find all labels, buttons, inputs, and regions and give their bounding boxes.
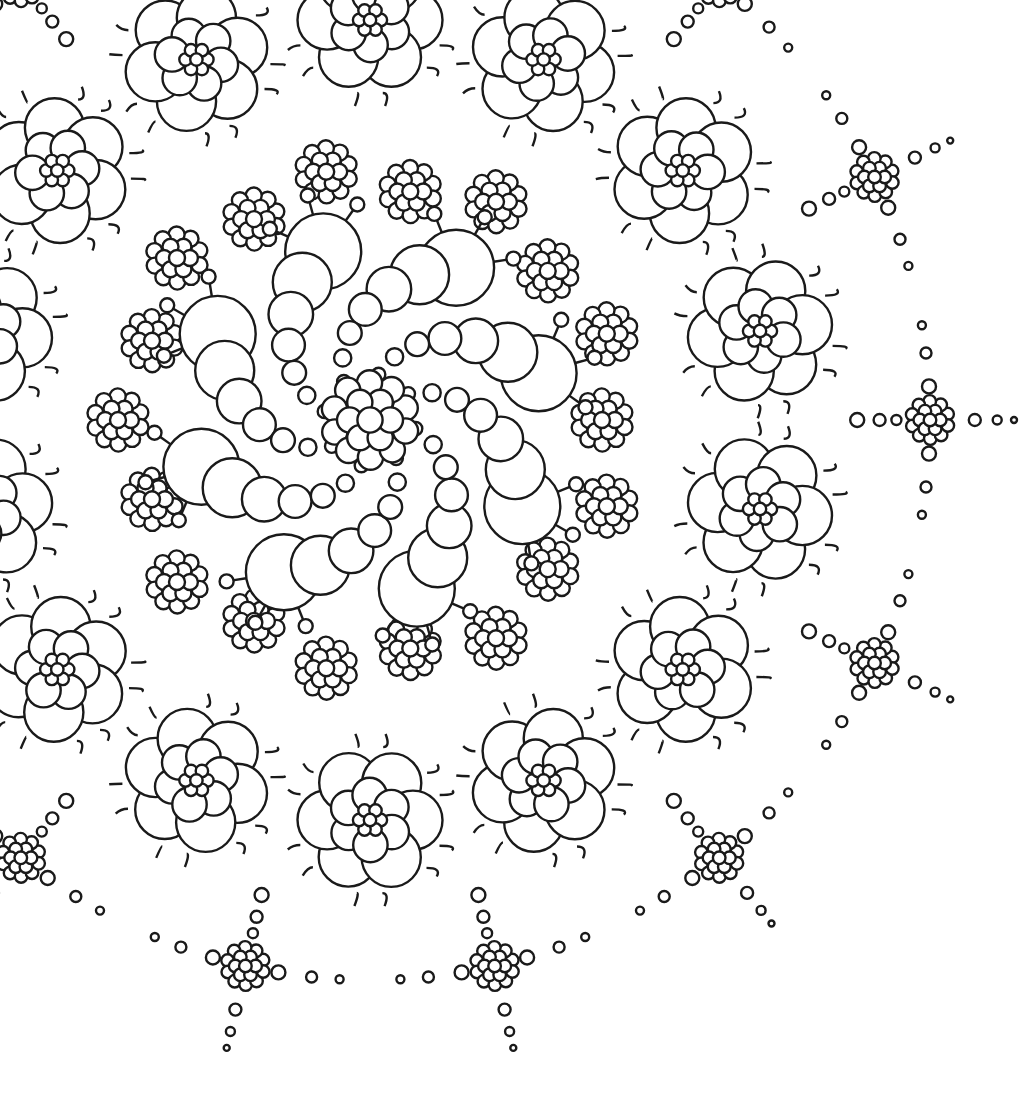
flower <box>0 87 145 255</box>
flower <box>288 734 454 906</box>
flower-ring <box>0 0 847 906</box>
flower <box>456 694 632 867</box>
flower <box>456 0 632 146</box>
flower <box>596 87 771 255</box>
flower <box>674 422 846 597</box>
flower <box>0 422 67 597</box>
flower <box>0 244 67 419</box>
flower <box>109 0 284 146</box>
flower <box>596 585 771 753</box>
center-cluster <box>322 370 418 470</box>
flower <box>0 585 145 753</box>
flower <box>674 244 846 419</box>
mandala-artwork <box>0 0 1028 1112</box>
flower <box>288 0 453 106</box>
flower <box>109 694 285 867</box>
